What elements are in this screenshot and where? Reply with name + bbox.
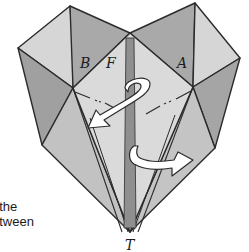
label-t: T bbox=[125, 237, 136, 252]
label-b: B bbox=[79, 55, 90, 71]
caption-line-2: etween bbox=[0, 214, 34, 230]
origami-heart-diagram: B F A T bbox=[0, 0, 249, 252]
label-a: A bbox=[175, 55, 187, 71]
label-f: F bbox=[105, 55, 117, 71]
caption-line-1: t the bbox=[0, 199, 17, 215]
center-strip bbox=[124, 38, 136, 228]
